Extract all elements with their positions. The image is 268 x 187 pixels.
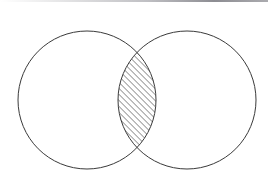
venn-diagram-figure: [0, 0, 268, 187]
venn-diagram-canvas: [0, 0, 268, 187]
